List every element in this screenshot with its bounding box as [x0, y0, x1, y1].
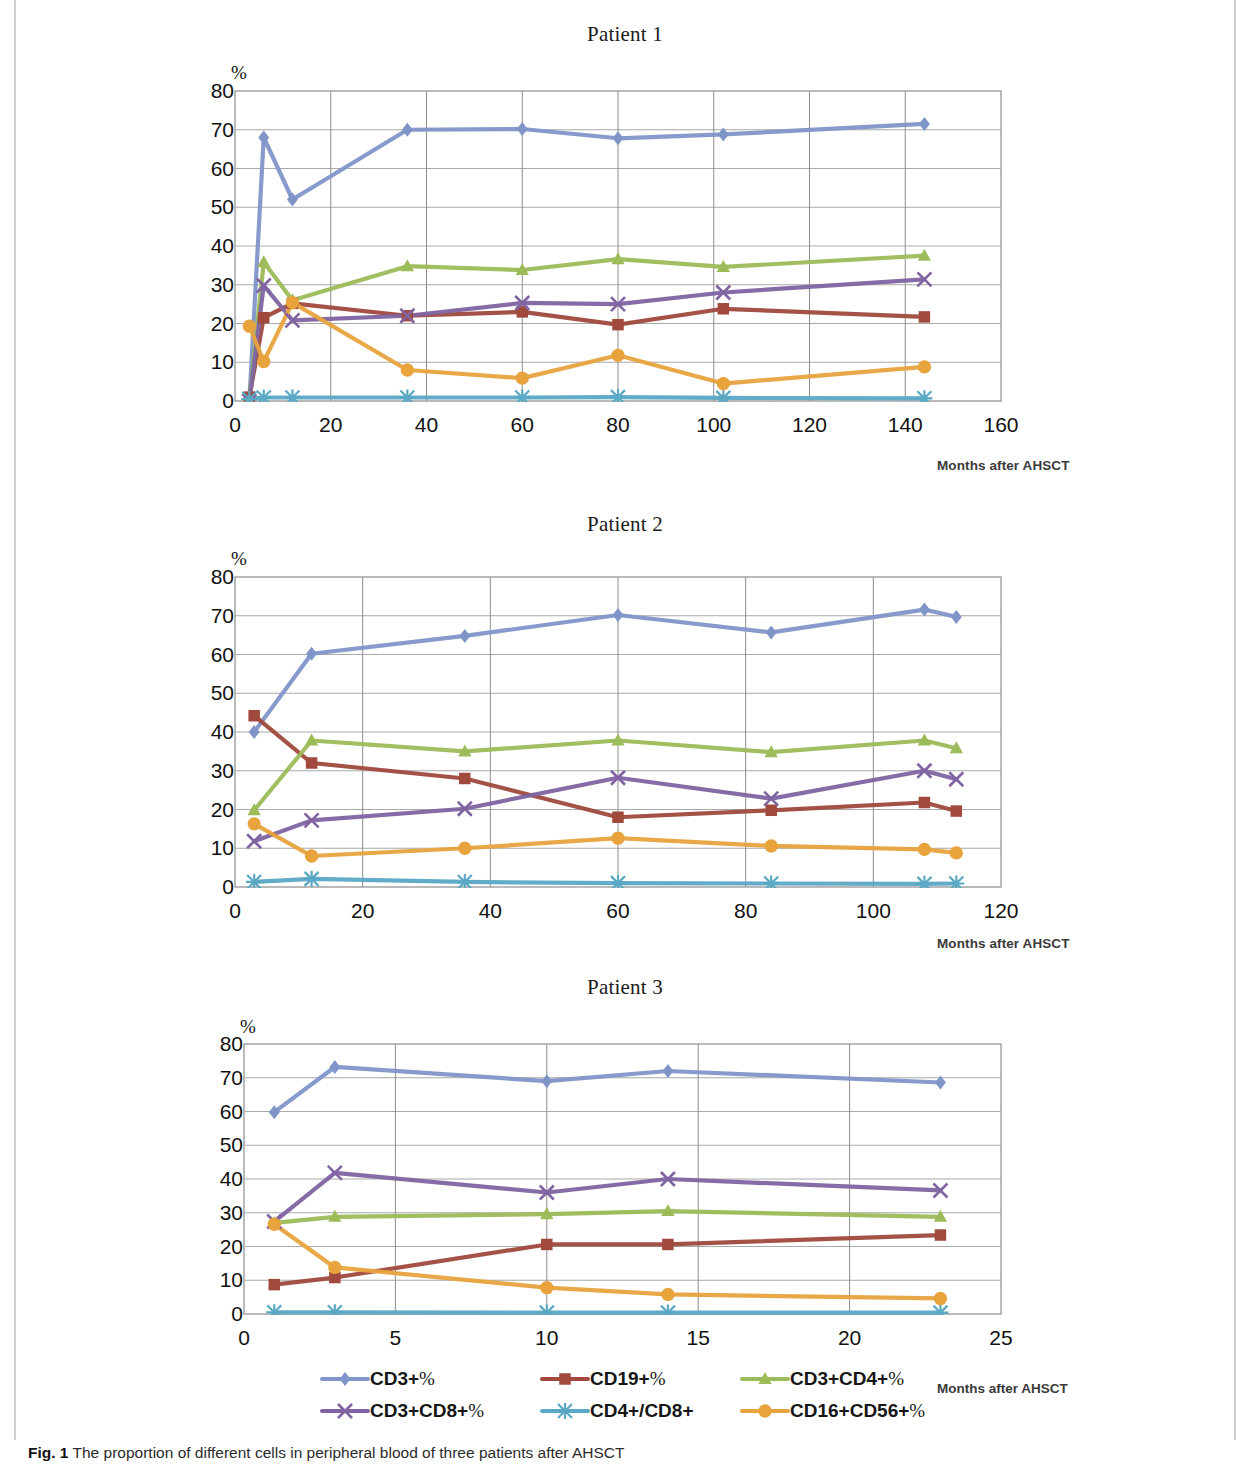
y-tick-label: 30 — [197, 1201, 243, 1225]
x-tick-label: 160 — [971, 413, 1031, 437]
x-tick-label: 20 — [333, 899, 393, 923]
plot-area-patient-3 — [243, 1043, 1002, 1315]
circle-marker-icon — [740, 1400, 790, 1422]
x-axis-caption-1: Months after AHSCT — [937, 458, 1070, 473]
x-tick-label: 120 — [780, 413, 840, 437]
y-tick-label: 0 — [188, 875, 234, 899]
chart-title-patient-1: Patient 1 — [0, 22, 1250, 47]
y-tick-label: 50 — [188, 195, 234, 219]
y-tick-label: 30 — [188, 273, 234, 297]
y-tick-label: 70 — [188, 118, 234, 142]
legend-label: CD16+CD56+% — [790, 1400, 925, 1422]
asterisk-marker-icon — [540, 1400, 590, 1422]
legend-item-cd4-cd8[interactable]: CD4+/CD8+ — [540, 1400, 694, 1422]
y-tick-label: 70 — [188, 604, 234, 628]
x-tick-label: 0 — [214, 1326, 274, 1350]
legend-item-cd3[interactable]: CD3+% — [320, 1368, 435, 1390]
x-tick-label: 60 — [588, 899, 648, 923]
chart-legend: CD3+% CD19+% CD3+CD4+% CD3+CD8+% CD4+/CD… — [0, 1368, 1250, 1434]
y-tick-label: 60 — [197, 1100, 243, 1124]
x-tick-label: 100 — [684, 413, 744, 437]
x-tick-label: 5 — [365, 1326, 425, 1350]
x-tick-label: 40 — [460, 899, 520, 923]
figure-caption-label: Fig. 1 — [28, 1444, 68, 1461]
x-tick-label: 20 — [301, 413, 361, 437]
y-tick-label: 10 — [188, 836, 234, 860]
y-tick-label: 20 — [188, 312, 234, 336]
x-axis-caption-2: Months after AHSCT — [937, 936, 1070, 951]
chart-title-patient-2: Patient 2 — [0, 512, 1250, 537]
legend-label: CD3+CD8+% — [370, 1400, 484, 1422]
x-tick-label: 100 — [843, 899, 903, 923]
y-tick-label: 40 — [197, 1167, 243, 1191]
legend-label: CD3+CD4+% — [790, 1368, 904, 1390]
legend-label: CD3+% — [370, 1368, 435, 1390]
triangle-marker-icon — [740, 1368, 790, 1390]
plot-area-patient-2 — [234, 576, 1002, 888]
x-tick-label: 120 — [971, 899, 1031, 923]
x-tick-label: 25 — [971, 1326, 1031, 1350]
y-tick-label: 60 — [188, 643, 234, 667]
y-tick-label: 80 — [188, 565, 234, 589]
y-tick-label: 50 — [188, 681, 234, 705]
y-tick-label: 80 — [188, 79, 234, 103]
figure-caption-text: The proportion of different cells in per… — [73, 1444, 625, 1461]
y-tick-label: 60 — [188, 157, 234, 181]
diamond-marker-icon — [320, 1368, 370, 1390]
x-tick-label: 0 — [205, 413, 265, 437]
x-tick-label: 140 — [875, 413, 935, 437]
x-tick-label: 80 — [716, 899, 776, 923]
x-tick-label: 60 — [492, 413, 552, 437]
y-tick-label: 40 — [188, 234, 234, 258]
y-tick-label: 20 — [188, 798, 234, 822]
legend-label: CD4+/CD8+ — [590, 1400, 694, 1422]
y-tick-label: 0 — [188, 389, 234, 413]
figure-caption: Fig. 1 The proportion of different cells… — [28, 1444, 1208, 1462]
plot-area-patient-1 — [234, 90, 1002, 402]
cross-marker-icon — [320, 1400, 370, 1422]
legend-item-cd19[interactable]: CD19+% — [540, 1368, 666, 1390]
legend-item-cd3-cd8[interactable]: CD3+CD8+% — [320, 1400, 484, 1422]
y-tick-label: 0 — [197, 1302, 243, 1326]
y-tick-label: 50 — [197, 1133, 243, 1157]
y-tick-label: 10 — [197, 1268, 243, 1292]
y-tick-label: 80 — [197, 1032, 243, 1056]
chart-title-patient-3: Patient 3 — [0, 975, 1250, 1000]
x-tick-label: 0 — [205, 899, 265, 923]
x-tick-label: 80 — [588, 413, 648, 437]
legend-item-cd3-cd4[interactable]: CD3+CD4+% — [740, 1368, 904, 1390]
x-tick-label: 40 — [397, 413, 457, 437]
y-tick-label: 30 — [188, 759, 234, 783]
y-tick-label: 10 — [188, 350, 234, 374]
x-tick-label: 15 — [668, 1326, 728, 1350]
y-tick-label: 20 — [197, 1235, 243, 1259]
legend-item-cd16-cd56[interactable]: CD16+CD56+% — [740, 1400, 925, 1422]
square-marker-icon — [540, 1368, 590, 1390]
y-tick-label: 40 — [188, 720, 234, 744]
y-tick-label: 70 — [197, 1066, 243, 1090]
legend-label: CD19+% — [590, 1368, 666, 1390]
x-tick-label: 10 — [517, 1326, 577, 1350]
x-tick-label: 20 — [820, 1326, 880, 1350]
